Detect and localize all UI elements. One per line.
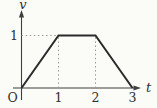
x-tick-label-1: 1 [55,90,63,105]
chart-svg: v t O 1 1 2 3 [0,0,157,108]
velocity-time-chart: v t O 1 1 2 3 [0,0,157,108]
x-tick-label-3: 3 [129,90,137,105]
y-axis-label: v [19,0,27,12]
y-tick-label-1: 1 [10,28,18,43]
origin-label: O [7,90,17,105]
x-tick-label-2: 2 [92,90,100,105]
x-axis-label: t [146,80,152,95]
velocity-curve [22,36,133,89]
